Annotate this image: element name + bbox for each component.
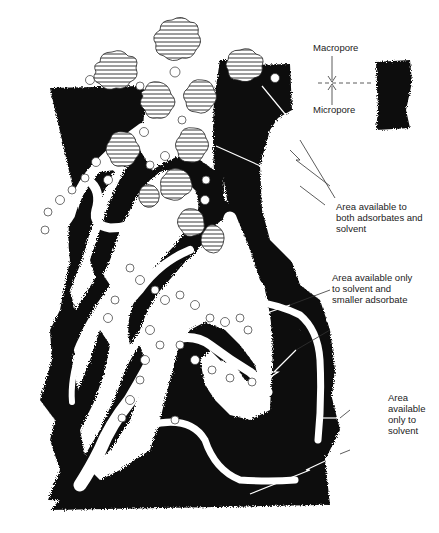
label-micropore: Micropore: [313, 104, 355, 115]
pore-boundary-marker: [290, 56, 372, 186]
label-solvent-smaller-adsorbate: Area available only to solvent and small…: [332, 272, 412, 305]
pore-diagram: [0, 0, 439, 533]
label-macropore: Macropore: [313, 42, 358, 53]
label-both-adsorbates: Area available to both adsorbates and so…: [336, 201, 423, 234]
label-solvent-only: Area available only to solvent: [388, 392, 426, 436]
